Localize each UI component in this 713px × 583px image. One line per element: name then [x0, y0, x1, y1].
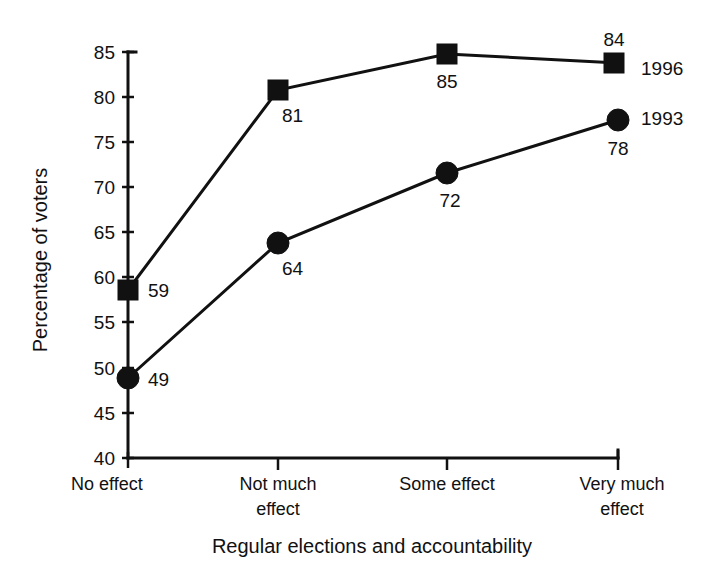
y-tick-label-70: 70: [94, 177, 115, 198]
series-1993-marker-1: [267, 232, 289, 254]
x-category-labels: No effect Not much effect Some effect Ve…: [71, 474, 665, 519]
y-tick-label-75: 75: [94, 132, 115, 153]
y-tick-label-85: 85: [94, 42, 115, 63]
series-1993-marker-3: [607, 109, 629, 131]
series-1993-marker-2: [436, 162, 458, 184]
legend: 1996 1993: [641, 58, 683, 129]
series-1993-marker-0: [117, 367, 139, 389]
series-1993-value-0: 49: [148, 369, 169, 390]
x-category-label-0: No effect: [71, 474, 143, 494]
x-category-label-3-line1: Very much: [579, 474, 664, 494]
series-1993: 49 64 72 78: [117, 109, 629, 390]
x-category-label-1-line1: Not much: [239, 474, 316, 494]
y-tick-label-45: 45: [94, 403, 115, 424]
line-chart: 85 80 75 70 65 60 55 50 45 40 No effect …: [0, 0, 713, 583]
series-1993-value-2: 72: [439, 190, 460, 211]
x-tick-marks: [128, 450, 618, 470]
series-1993-line: [128, 120, 618, 378]
axes-group: [128, 52, 618, 458]
series-1996-marker-1: [268, 80, 288, 100]
series-1993-value-1: 64: [282, 258, 304, 279]
chart-canvas: 85 80 75 70 65 60 55 50 45 40 No effect …: [0, 0, 713, 583]
y-tick-labels: 85 80 75 70 65 60 55 50 45 40: [94, 42, 115, 469]
series-1996-value-1: 81: [282, 105, 303, 126]
y-tick-label-40: 40: [94, 448, 115, 469]
x-category-label-1-line2: effect: [256, 499, 300, 519]
series-1996-value-3: 84: [603, 29, 625, 50]
y-tick-label-50: 50: [94, 358, 115, 379]
series-1996-line: [128, 54, 618, 290]
legend-label-1993: 1993: [641, 108, 683, 129]
y-axis-title: Percentage of voters: [29, 168, 51, 353]
series-1996-marker-2: [437, 44, 457, 64]
y-tick-label-60: 60: [94, 267, 115, 288]
y-tick-label-55: 55: [94, 312, 115, 333]
legend-label-1996: 1996: [641, 58, 683, 79]
x-axis-title: Regular elections and accountability: [212, 535, 532, 557]
y-tick-label-80: 80: [94, 87, 115, 108]
series-1996: 59 81 85 84: [118, 29, 625, 301]
series-1996-value-2: 85: [436, 71, 457, 92]
series-1996-marker-3: [604, 53, 624, 73]
series-1993-value-3: 78: [607, 138, 628, 159]
y-tick-label-65: 65: [94, 222, 115, 243]
x-category-label-3-line2: effect: [600, 499, 644, 519]
series-1996-value-0: 59: [148, 280, 169, 301]
x-category-label-2: Some effect: [399, 474, 495, 494]
series-1996-marker-0: [118, 280, 138, 300]
